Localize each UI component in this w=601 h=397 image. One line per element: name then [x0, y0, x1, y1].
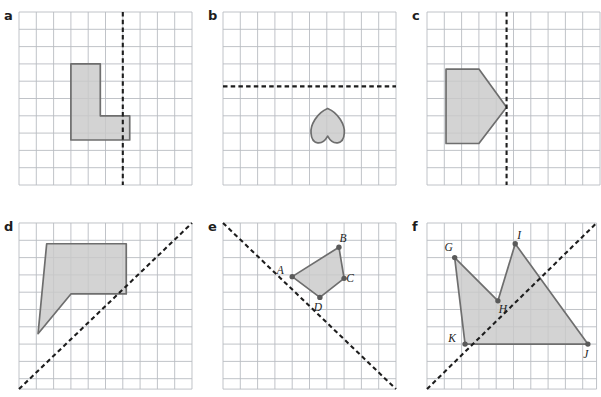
panel-letter-e: e — [208, 220, 217, 233]
panel-canvas-f: GHIJK — [426, 222, 598, 390]
grid-b — [223, 12, 396, 185]
pentagon-arrow-polygon — [446, 69, 507, 143]
vertex-label-c: C — [346, 272, 354, 284]
panel-f: fGHIJK — [426, 222, 598, 390]
panel-canvas-b — [222, 11, 397, 186]
panel-canvas-a — [18, 11, 193, 186]
vertex-label-d: D — [313, 301, 323, 313]
vertex-dot-j — [585, 341, 590, 346]
panel-letter-f: f — [412, 220, 418, 233]
vertex-label-a: A — [276, 264, 285, 276]
panel-letter-a: a — [4, 9, 13, 22]
vertex-dot-k — [462, 341, 467, 346]
grid-a — [19, 12, 192, 185]
quadrilateral-abcd — [292, 247, 344, 297]
vertex-dot-d — [317, 295, 322, 300]
vertex-label-k: K — [447, 332, 457, 344]
panel-c: c — [426, 11, 601, 186]
panel-d: d — [18, 222, 193, 390]
vertex-label-g: G — [445, 241, 454, 253]
panel-e: eABCD — [222, 222, 397, 390]
vertex-label-i: I — [516, 229, 522, 241]
vertex-dot-i — [513, 241, 518, 246]
vertex-label-h: H — [498, 303, 508, 315]
crown-polygon-ghijk — [455, 244, 588, 344]
vertex-dot-g — [452, 255, 457, 260]
panel-canvas-e: ABCD — [222, 222, 397, 390]
vertex-dot-a — [290, 274, 295, 279]
panel-b: b — [222, 11, 397, 186]
l-shape-polygon — [71, 64, 130, 140]
heart-shape-inverted — [311, 108, 344, 142]
panel-canvas-d — [18, 222, 193, 390]
vertex-label-b: B — [339, 232, 346, 244]
vertex-label-j: J — [583, 348, 589, 360]
vertex-dot-b — [336, 245, 341, 250]
panel-letter-d: d — [4, 220, 13, 233]
panel-a: a — [18, 11, 193, 186]
panel-letter-c: c — [412, 9, 420, 22]
pentagon-flag-polygon — [38, 244, 126, 334]
panel-letter-b: b — [208, 9, 217, 22]
panel-canvas-c — [426, 11, 601, 186]
